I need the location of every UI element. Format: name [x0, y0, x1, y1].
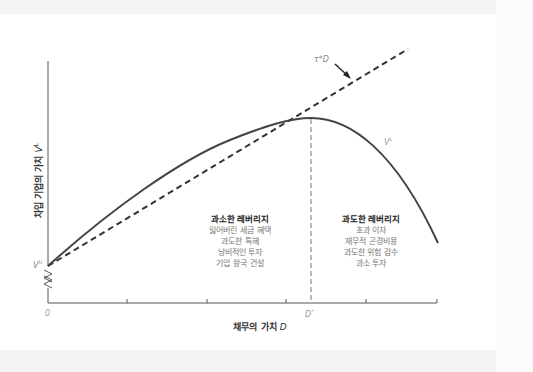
overleverage-item: 과소 투자 [326, 258, 416, 269]
y-axis-label-sup: L [32, 143, 39, 146]
axis-break-icon [44, 270, 52, 288]
vu-sup: U [38, 259, 42, 265]
x-ticks [127, 299, 437, 303]
underleverage-item: 기업 왕국 건설 [195, 258, 285, 269]
underleverage-item: 낭비적인 투자 [195, 247, 285, 258]
arrow-icon [335, 64, 351, 79]
dstar-label: D* [305, 308, 314, 319]
underleverage-item: 과도한 특혜 [195, 236, 285, 247]
underleverage-block: 과소한 레버리지 잃어버린 세금 혜택 과도한 특혜 낭비적인 투자 기업 왕국… [195, 214, 285, 269]
overleverage-item: 재무적 곤경비용 [326, 236, 416, 247]
dstar-sup: * [311, 308, 314, 314]
y-axis-label: 차입 기업의 가치 VL [32, 121, 45, 241]
y-axis-label-text: 차입 기업의 가치 [34, 156, 44, 218]
underleverage-item: 잃어버린 세금 혜택 [195, 225, 285, 236]
underleverage-title: 과소한 레버리지 [195, 214, 285, 225]
tax-line-label: τ*D [314, 55, 329, 64]
x-axis-label-var: D [280, 322, 287, 332]
origin-label: 0 [45, 309, 50, 318]
x-axis-label: 채무의 가치 D [200, 320, 320, 333]
overleverage-item: 초과 이자 [326, 225, 416, 236]
overleverage-block: 과도한 레버리지 초과 이자 재무적 곤경비용 과도한 위험 감수 과소 투자 [326, 214, 416, 269]
y-axis-label-var: V [34, 146, 44, 152]
vu-label: VU [33, 259, 42, 270]
overleverage-title: 과도한 레버리지 [326, 214, 416, 225]
series-label-sup: L [389, 136, 392, 142]
leverage-chart [0, 0, 533, 372]
series-label-vl: VL [384, 136, 392, 147]
x-axis-label-text: 채무의 가치 [233, 322, 276, 332]
overleverage-item: 과도한 위험 감수 [326, 247, 416, 258]
